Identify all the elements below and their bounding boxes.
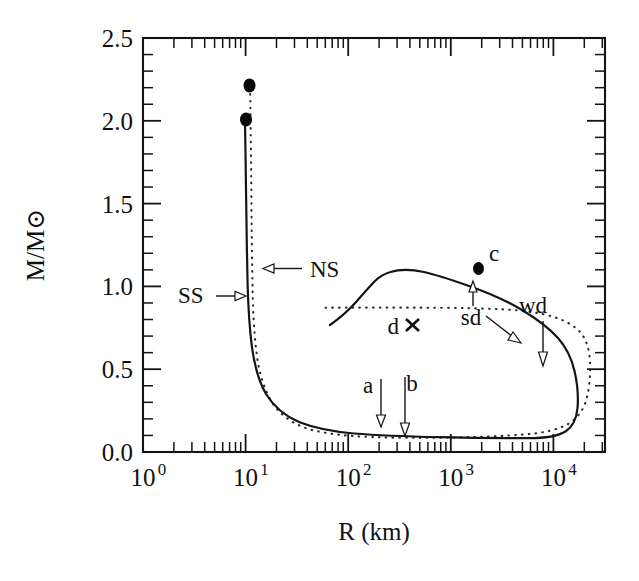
arrow-down-icon [539,352,548,366]
x-tick-exponent-0: 0 [158,460,167,479]
annotation-sd-label: sd [461,305,482,330]
x-tick-label-1: 10 1 [233,460,269,491]
annotation-d: d [388,314,400,339]
plot-frame [143,38,605,452]
mass-radius-plot: 0.0 0.5 1.0 1.5 2.0 2.5 10 0 10 1 10 2 1… [0,0,639,581]
x-tick-labels: 10 0 10 1 10 2 10 3 10 4 [131,460,578,491]
x-tick-label-0: 10 0 [131,460,167,491]
annotation-ns: NS [263,257,339,282]
ns-max-mass-dot [244,79,256,93]
x-tick-exponent-4: 4 [568,460,577,479]
x-tick-mantissa-0: 10 [131,464,156,491]
annotation-b-label: b [406,371,418,396]
x-axis-minor-ticks [174,38,602,452]
arrow-down-icon [401,423,410,436]
y-tick-label-0: 0.0 [102,439,133,466]
annotation-d-label: d [388,314,400,339]
x-tick-mantissa-3: 10 [438,464,463,491]
annotation-wd: wd [486,293,548,366]
arrow-diagonal-icon [508,332,521,343]
curve-ns-dotted [250,81,590,438]
annotation-b: b [401,371,418,436]
annotation-a-label: a [363,373,373,398]
x-tick-exponent-2: 2 [363,460,372,479]
annotation-wd-label: wd [519,293,548,318]
figure-container: 0.0 0.5 1.0 1.5 2.0 2.5 10 0 10 1 10 2 1… [0,0,639,581]
annotation-a: a [363,373,386,427]
point-d-cross-icon [406,319,419,331]
y-tick-label-2: 1.0 [102,273,133,300]
y-tick-label-3: 1.5 [102,191,133,218]
arrow-left-icon [263,264,274,273]
annotation-wd-diagonal-arrow-line [486,316,513,337]
x-tick-exponent-3: 3 [466,460,475,479]
arrow-right-icon [235,292,246,301]
y-tick-label-1: 0.5 [102,356,133,383]
x-tick-label-4: 10 4 [541,460,577,491]
annotation-ss-label: SS [178,283,204,308]
x-tick-label-2: 10 2 [336,460,372,491]
y-tick-labels: 0.0 0.5 1.0 1.5 2.0 2.5 [102,25,133,466]
x-tick-label-3: 10 3 [438,460,474,491]
annotation-ss: SS [178,283,246,308]
y-axis-title: M/M⊙ [22,209,49,281]
y-axis-major-ticks [143,38,605,452]
arrow-down-icon [377,415,386,427]
data-markers [240,79,484,332]
x-tick-mantissa-2: 10 [336,464,361,491]
annotation-ns-label: NS [310,257,339,282]
y-tick-label-5: 2.5 [102,25,133,52]
x-axis-title: R (km) [338,518,410,546]
x-tick-exponent-1: 1 [260,460,269,479]
ss-max-mass-dot [240,113,252,127]
x-tick-mantissa-1: 10 [233,464,258,491]
annotation-c: c [489,241,499,266]
y-axis-minor-ticks [143,55,605,436]
y-tick-label-4: 2.0 [102,108,133,135]
x-tick-mantissa-4: 10 [541,464,566,491]
annotation-c-label: c [489,241,499,266]
point-c-dot [473,262,484,275]
